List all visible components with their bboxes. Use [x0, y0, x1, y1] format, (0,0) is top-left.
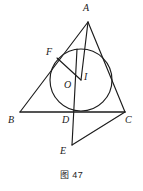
segment-ec	[72, 112, 125, 145]
geometry-diagram	[0, 0, 143, 191]
point-label-b: B	[8, 115, 14, 125]
point-label-i: I	[84, 72, 87, 82]
point-label-c: C	[125, 115, 132, 125]
segment-oe	[72, 49, 77, 145]
point-label-e: E	[60, 146, 66, 156]
point-label-f: F	[46, 47, 52, 57]
figure-47-container: A F I O B D C E 图 47	[0, 0, 143, 191]
figure-caption: 图 47	[0, 168, 143, 181]
point-label-d: D	[62, 115, 69, 125]
segment-ab	[20, 22, 88, 112]
point-label-o: O	[64, 80, 71, 90]
segment-if	[57, 58, 81, 80]
point-label-a: A	[83, 3, 89, 13]
